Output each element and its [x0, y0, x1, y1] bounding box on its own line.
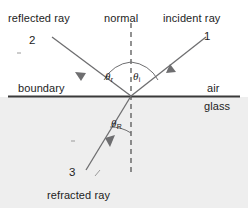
- label-incident-ray: incident ray: [163, 13, 220, 25]
- incident-ray-arrowhead: [166, 64, 176, 73]
- optics-diagram: reflected ray normal incident ray bounda…: [0, 0, 248, 208]
- reflected-ray-arrowhead: [75, 72, 86, 81]
- ray-number-refracted: 3: [69, 166, 75, 178]
- label-refracted-ray: refracted ray: [47, 190, 110, 202]
- angle-reflection-subscript: r: [111, 76, 113, 83]
- label-boundary: boundary: [18, 83, 65, 95]
- angle-reflection-symbol: θ: [105, 70, 110, 82]
- angle-refraction-subscript: R: [117, 123, 122, 130]
- label-glass-medium: glass: [204, 101, 230, 113]
- glass-region: [0, 97, 248, 208]
- label-normal: normal: [104, 13, 138, 25]
- angle-incidence-symbol: θ: [133, 70, 138, 82]
- label-air-medium: air: [207, 83, 220, 95]
- ray-number-reflected: 2: [29, 34, 35, 46]
- angle-label-incidence: θi: [133, 70, 140, 82]
- angle-label-refraction: θR: [111, 117, 121, 129]
- ray-number-incident: 1: [204, 30, 210, 42]
- angle-refraction-symbol: θ: [111, 117, 116, 129]
- incident-ray-line: [131, 37, 206, 96]
- angle-label-reflection: θr: [105, 70, 113, 82]
- label-reflected-ray: reflected ray: [8, 13, 70, 25]
